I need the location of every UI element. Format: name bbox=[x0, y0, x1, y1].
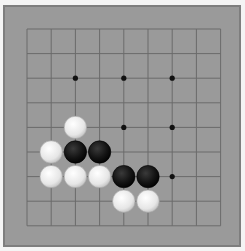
star-point bbox=[121, 76, 126, 81]
star-point bbox=[73, 76, 78, 81]
black-stone bbox=[113, 165, 135, 187]
white-stone bbox=[40, 141, 62, 163]
star-point bbox=[170, 76, 175, 81]
black-stone bbox=[64, 141, 86, 163]
white-stone bbox=[88, 165, 110, 187]
white-stone bbox=[64, 165, 86, 187]
star-point bbox=[121, 125, 126, 130]
black-stone bbox=[137, 165, 159, 187]
black-stone bbox=[88, 141, 110, 163]
star-point bbox=[170, 174, 175, 179]
white-stone bbox=[137, 190, 159, 212]
white-stone bbox=[113, 190, 135, 212]
board-grid[interactable] bbox=[0, 0, 245, 251]
white-stone bbox=[64, 116, 86, 138]
star-point bbox=[170, 125, 175, 130]
white-stone bbox=[40, 165, 62, 187]
